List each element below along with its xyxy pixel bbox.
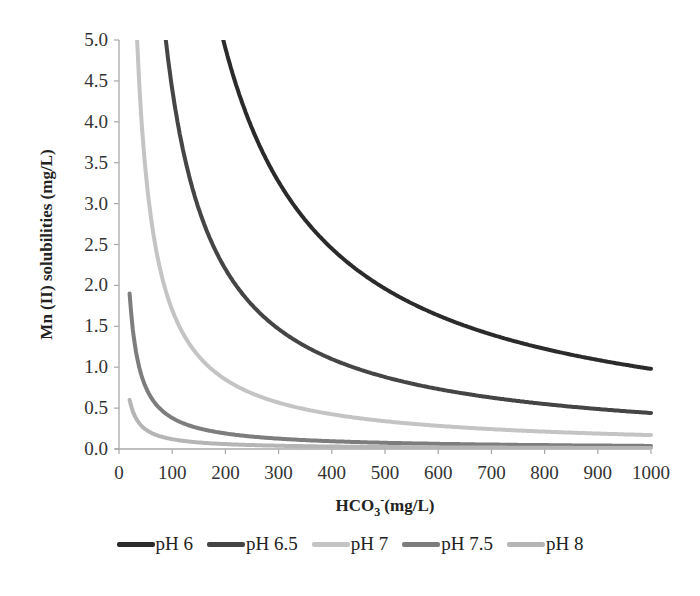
legend-item-ph7-5: pH 7.5: [402, 533, 493, 555]
legend-item-ph6-5: pH 6.5: [207, 533, 298, 555]
x-tick-label: 100: [158, 462, 187, 483]
series-line-ph-6: [130, 16, 651, 369]
x-tick-label: 0: [114, 462, 124, 483]
y-tick-label: 1.0: [84, 356, 108, 377]
y-tick-label: 4.0: [84, 111, 108, 132]
y-tick-label: 4.5: [84, 70, 108, 91]
y-tick-label: 3.0: [84, 193, 108, 214]
x-tick-label: 500: [371, 462, 400, 483]
legend-label: pH 8: [546, 533, 583, 555]
x-axis-title: HCO3-(mg/L): [336, 493, 435, 519]
data-series: [130, 16, 651, 449]
y-axis-title: Mn (II) solubilities (mg/L): [37, 149, 56, 339]
y-tick-label: 2.0: [84, 274, 108, 295]
series-line-ph-7: [130, 16, 651, 436]
chart-canvas: 0.00.51.01.52.02.53.03.54.04.55.00100200…: [0, 0, 700, 596]
legend-swatch-ph6: [117, 542, 155, 547]
y-tick-label: 0.5: [84, 397, 108, 418]
x-tick-label: 900: [584, 462, 613, 483]
x-tick-label: 400: [318, 462, 347, 483]
legend-item-ph7: pH 7: [312, 533, 388, 555]
legend: pH 6 pH 6.5 pH 7 pH 7.5 pH 8: [0, 531, 700, 557]
legend-label: pH 7.5: [441, 533, 493, 555]
x-tick-label: 600: [424, 462, 453, 483]
legend-item-ph8: pH 8: [507, 533, 583, 555]
y-tick-label: 3.5: [84, 152, 108, 173]
legend-swatch-ph8: [507, 542, 545, 547]
legend-swatch-ph6-5: [207, 542, 245, 547]
x-tick-label: 800: [530, 462, 559, 483]
x-tick-label: 1000: [632, 462, 670, 483]
y-tick-label: 1.5: [84, 315, 108, 336]
legend-item-ph6: pH 6: [117, 533, 193, 555]
axes: [114, 40, 651, 454]
x-tick-label: 200: [211, 462, 240, 483]
y-tick-label: 2.5: [84, 234, 108, 255]
y-tick-label: 0.0: [84, 438, 108, 459]
x-tick-label: 300: [264, 462, 293, 483]
legend-label: pH 6: [156, 533, 193, 555]
legend-label: pH 7: [351, 533, 388, 555]
x-tick-label: 700: [477, 462, 506, 483]
legend-swatch-ph7: [312, 542, 350, 547]
legend-label: pH 6.5: [246, 533, 298, 555]
legend-swatch-ph7-5: [402, 542, 440, 547]
y-tick-label: 5.0: [84, 29, 108, 50]
